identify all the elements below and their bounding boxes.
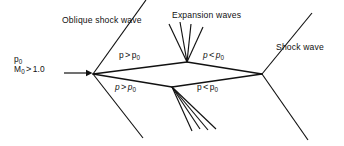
pressure-relation: >: [124, 50, 132, 60]
freestream-pressure-subscript: 0: [19, 58, 23, 65]
lower-expansion-fan: [172, 87, 216, 131]
freestream-mach-line: M0>1.0: [14, 65, 45, 75]
pressure-relation: >: [120, 82, 128, 92]
diagram-canvas: [0, 0, 344, 146]
upper-expansion-wave-1: [169, 24, 187, 62]
pressure-relation: <: [202, 82, 210, 92]
label-shock-wave: Shock wave: [276, 43, 324, 52]
shock-expansion-diagram: Oblique shock wave Expansion waves Shock…: [0, 0, 344, 146]
lower-tail-shock-line: [262, 74, 308, 140]
pressure-reference-subscript: 0: [137, 54, 141, 61]
freestream-pressure-line: p0: [14, 54, 22, 64]
pressure-reference-subscript: 0: [215, 86, 219, 93]
label-pressure-lower-left: p>p0: [115, 83, 136, 93]
pressure-reference-symbol: p: [128, 82, 133, 92]
pressure-reference-symbol: p: [216, 50, 221, 60]
freestream-mach-subscript: 0: [21, 68, 25, 75]
lower-expansion-wave-3: [172, 87, 208, 130]
flow-direction-arrow-icon: [64, 70, 93, 76]
freestream-mach-relation: >: [25, 64, 33, 74]
pressure-reference-subscript: 0: [133, 86, 137, 93]
airfoil-upper-forward-surface: [93, 62, 187, 74]
pressure-relation: <: [208, 50, 216, 60]
label-oblique-shock-wave: Oblique shock wave: [62, 16, 142, 25]
lower-expansion-wave-2: [172, 87, 200, 129]
label-pressure-upper-right: p<p0: [203, 51, 224, 61]
label-pressure-upper-left: p>p0: [119, 51, 140, 61]
upper-expansion-fan: [169, 22, 203, 62]
label-freestream-conditions: p0 M0>1.0: [14, 55, 45, 74]
pressure-reference-subscript: 0: [221, 54, 225, 61]
pressure-reference-symbol: p: [132, 50, 137, 60]
upper-oblique-shock-line: [93, 0, 146, 74]
lower-expansion-wave-1: [172, 87, 192, 131]
freestream-mach-value: 1.0: [33, 64, 45, 74]
lower-expansion-wave-4: [172, 87, 216, 129]
label-expansion-waves: Expansion waves: [172, 11, 241, 20]
label-pressure-lower-right: p<p0: [197, 83, 218, 93]
airfoil-upper-aft-surface: [187, 62, 262, 74]
pressure-reference-symbol: p: [210, 82, 215, 92]
upper-expansion-wave-2: [180, 22, 187, 62]
